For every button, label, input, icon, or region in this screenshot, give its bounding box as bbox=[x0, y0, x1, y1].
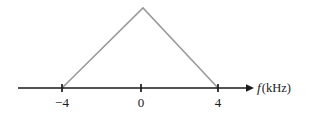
right-arrow-icon bbox=[246, 84, 254, 92]
tick-label-minus4: −4 bbox=[55, 96, 69, 109]
tick-label-zero: 0 bbox=[138, 96, 145, 109]
tick-label-4: 4 bbox=[215, 96, 222, 109]
triangular-spectrum-trace bbox=[62, 8, 218, 88]
plot-canvas bbox=[0, 0, 311, 115]
spectrum-figure: −4 0 4 f(kHz) bbox=[0, 0, 311, 115]
axis-label-unit: (kHz) bbox=[262, 81, 291, 95]
axis-label-frequency: f(kHz) bbox=[257, 81, 291, 95]
